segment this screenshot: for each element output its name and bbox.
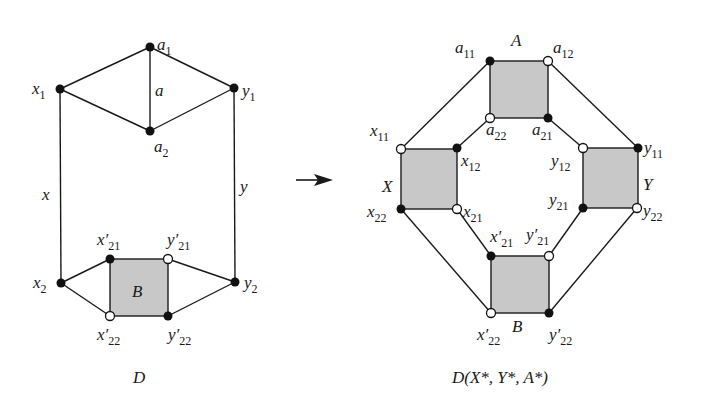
label-a22: a22: [486, 120, 507, 143]
caption-right: D(X*, Y*, A*): [451, 368, 548, 387]
edge-x1-a2: [60, 89, 150, 131]
label-x11: x11: [369, 121, 389, 144]
vertex-y1: [230, 84, 239, 93]
label-a11: a11: [455, 38, 475, 61]
vertex-x22: [397, 205, 406, 214]
edge-a11-x11: [401, 61, 490, 149]
label-y12: y12: [549, 151, 571, 174]
face-B-right: [491, 256, 549, 313]
vertex-xp21-right: [487, 252, 496, 261]
vertex-x11: [397, 145, 406, 154]
label-x21: x21: [462, 202, 483, 225]
vertex-y22: [633, 204, 642, 213]
face-X: [401, 149, 457, 209]
edge-y21-yp21: [549, 208, 583, 256]
vertex-a12: [544, 57, 553, 66]
label-x12: x12: [460, 151, 481, 174]
label-x1: x1: [31, 79, 46, 102]
label-a21: a21: [532, 120, 553, 143]
label-xp22: x′22: [96, 325, 120, 348]
label-y11: y11: [642, 138, 663, 161]
vertex-yp21: [164, 255, 173, 264]
label-yp22-right: y′22: [547, 325, 572, 348]
edge-y: [234, 88, 235, 282]
label-yp22: y′22: [166, 325, 191, 348]
edge-a12-y11: [548, 61, 638, 148]
label-yp21-right: y′21: [524, 225, 549, 248]
label-xp21-right: x′21: [489, 227, 513, 250]
edge-label-y: y: [238, 177, 248, 196]
face-label-Y: Y: [643, 175, 654, 194]
vertex-a21: [544, 114, 553, 123]
label-xp22-right: x′22: [476, 325, 500, 348]
vertex-x1: [56, 85, 65, 94]
face-A: [490, 61, 548, 118]
label-xp21: x′21: [96, 230, 120, 253]
label-a2: a2: [154, 137, 169, 160]
vertex-a2: [146, 127, 155, 136]
label-a12: a12: [553, 38, 574, 61]
edge-x2-xp21: [61, 259, 110, 283]
label-y1: y1: [240, 81, 256, 104]
vertex-xp21: [106, 255, 115, 264]
face-label-X: X: [381, 177, 393, 196]
vertex-x2: [57, 279, 66, 288]
edge-x: [60, 89, 61, 283]
vertex-yp22-right: [545, 309, 554, 318]
vertex-y11: [634, 144, 643, 153]
right-graph: a11 a12 a22 a21 x11 x12 x22 x21 y12 y11 …: [366, 31, 663, 387]
left-graph: a1 a2 x1 y1 x2 y2 x′21 y′21 x′22 y′22 a …: [31, 35, 258, 387]
arrow-icon: [296, 174, 333, 186]
vertex-a1: [146, 43, 155, 52]
edge-yp21-y2: [168, 259, 235, 282]
diagram-canvas: a1 a2 x1 y1 x2 y2 x′21 y′21 x′22 y′22 a …: [0, 0, 701, 408]
vertex-yp22: [164, 312, 173, 321]
vertex-yp21-right: [545, 252, 554, 261]
edge-label-x: x: [41, 185, 50, 204]
edge-label-a: a: [155, 81, 164, 100]
edge-x2-xp22: [61, 283, 110, 316]
vertex-xp22-right: [487, 309, 496, 318]
face-label-B-right: B: [512, 317, 523, 336]
vertex-xp22: [106, 312, 115, 321]
label-yp21: y′21: [165, 230, 190, 253]
face-Y: [583, 148, 638, 208]
label-x2: x2: [32, 273, 47, 296]
label-y21: y21: [547, 190, 569, 213]
edge-a21-y12: [548, 118, 583, 148]
edge-x1-a1: [60, 47, 150, 89]
vertex-y2: [231, 278, 240, 287]
edge-y22-yp22: [549, 208, 637, 313]
face-label-A: A: [510, 31, 522, 50]
label-x22: x22: [366, 202, 387, 225]
vertex-x21: [453, 205, 462, 214]
caption-left: D: [132, 368, 146, 387]
vertex-a11: [486, 57, 495, 66]
label-y22: y22: [641, 201, 663, 224]
vertex-y12: [579, 144, 588, 153]
face-label-B-left: B: [132, 282, 143, 301]
label-y2: y2: [242, 273, 258, 296]
edge-yp22-y2: [168, 282, 235, 316]
vertex-y21: [579, 204, 588, 213]
